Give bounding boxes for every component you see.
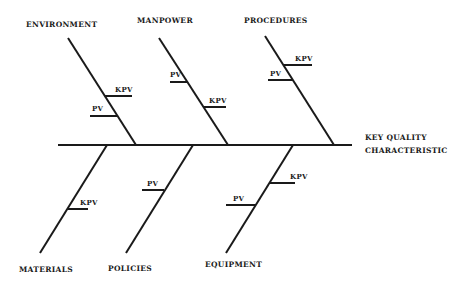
category-label-policies: POLICIES	[108, 265, 152, 273]
bone-policies	[126, 145, 193, 253]
tick-label-equipment-pv: PV	[233, 195, 244, 202]
effect-label-line1: KEY QUALITY	[365, 131, 448, 144]
effect-label: KEY QUALITY CHARACTERISTIC	[365, 131, 448, 157]
tick-label-environment-pv: PV	[92, 105, 103, 112]
category-label-environment: ENVIRONMENT	[26, 21, 97, 29]
tick-label-procedures-kpv: KPV	[295, 55, 313, 62]
tick-label-materials-kpv: KPV	[80, 199, 98, 206]
bone-procedures	[265, 36, 334, 145]
tick-label-equipment-kpv: KPV	[290, 173, 308, 180]
effect-label-line2: CHARACTERISTIC	[365, 144, 448, 157]
tick-label-procedures-pv: PV	[270, 70, 281, 77]
tick-label-policies-pv: PV	[147, 180, 158, 187]
category-label-materials: MATERIALS	[19, 266, 73, 274]
category-label-manpower: MANPOWER	[137, 17, 193, 25]
bone-manpower	[159, 38, 228, 145]
category-label-equipment: EQUIPMENT	[205, 261, 262, 269]
fishbone-diagram: ENVIRONMENT MANPOWER PROCEDURES MATERIAL…	[0, 0, 457, 292]
category-label-procedures: PROCEDURES	[244, 17, 308, 25]
tick-label-manpower-kpv: KPV	[209, 97, 227, 104]
tick-label-manpower-pv: PV	[170, 71, 181, 78]
tick-label-environment-kpv: KPV	[115, 86, 133, 93]
